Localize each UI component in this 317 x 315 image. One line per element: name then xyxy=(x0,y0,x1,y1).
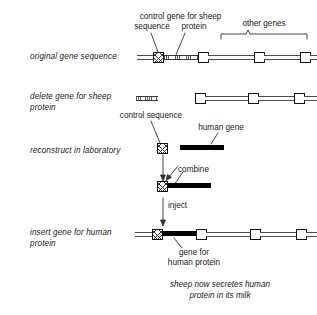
annotation-human-gene: human gene xyxy=(188,123,254,133)
strand-row4-right xyxy=(306,232,317,237)
leader-human-gene xyxy=(211,133,218,144)
gene-engineering-diagram: control sequence gene for sheep protein … xyxy=(0,0,317,315)
human-gene-bar-construct xyxy=(167,183,211,188)
row-label-delete-gene: delete gene for sheep protein xyxy=(30,92,145,113)
strand-row1-right xyxy=(310,55,317,60)
row-label-original-gene-sequence: original gene sequence xyxy=(30,52,140,63)
annotation-inject: inject xyxy=(168,201,212,211)
excised-sheep-gene-fragment xyxy=(136,96,158,101)
sheep-gene-segment-row1 xyxy=(164,55,199,60)
leader-control-sequence-top xyxy=(151,33,158,52)
row-label-reconstruct: reconstruct in laboratory xyxy=(30,146,150,157)
arrow-line-combine xyxy=(169,166,178,177)
control-sequence-box-row1 xyxy=(153,52,164,63)
human-gene-inserted-row4 xyxy=(162,231,197,236)
leader-gene-for-human-protein xyxy=(174,238,182,248)
control-sequence-box-reconstruct xyxy=(157,143,168,154)
diagram-caption: sheep now secretes human protein in its … xyxy=(145,279,295,301)
annotation-other-genes: other genes xyxy=(232,19,296,29)
strand-row2-right xyxy=(304,96,317,101)
strand-row2-mid1 xyxy=(205,96,250,101)
annotation-combine: combine xyxy=(178,165,228,175)
human-gene-bar-isolated xyxy=(180,145,224,150)
arrow-head-combine xyxy=(166,174,171,180)
bracket-other-genes xyxy=(221,30,307,39)
strand-row4-mid1 xyxy=(206,232,252,237)
leader-control-sequence-mid xyxy=(151,121,160,143)
arrow-head-inject xyxy=(161,220,166,226)
leader-sheep-gene xyxy=(176,33,185,55)
row-label-insert-gene: insert gene for human protein xyxy=(30,228,148,249)
annotation-gene-for-human-protein: gene for human protein xyxy=(140,248,248,268)
annotation-gene-for-sheep-protein: gene for sheep protein xyxy=(158,12,230,32)
strand-row1-mid1 xyxy=(208,55,256,60)
annotation-control-sequence-mid: control sequence xyxy=(102,111,200,121)
